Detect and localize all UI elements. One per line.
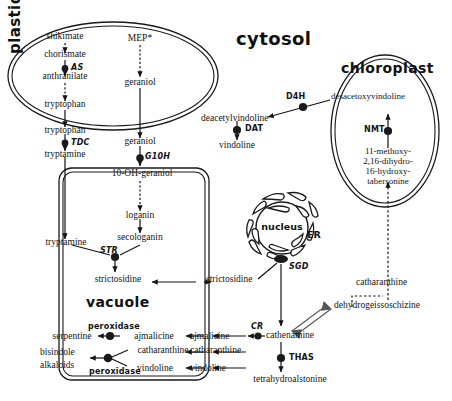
metabolite-cathenamine: cathenamine (266, 330, 314, 341)
metabolite-catharanthine-right: catharanthine (356, 277, 407, 288)
enzyme-label-tdc: TDC (71, 138, 90, 147)
metabolite-tryptamine-cytosol: tryptamine (44, 149, 85, 160)
enzyme-label-cr: CR (251, 322, 263, 331)
metabolite-tabersonine-line1: 11-methoxy- (365, 146, 411, 157)
enzyme-label-thas: THAS (289, 353, 314, 362)
enzyme-label-as: AS (71, 63, 83, 72)
compartment-label-er: ER (307, 230, 321, 241)
enzyme-label-d4h: D4H (286, 92, 306, 101)
metabolite-tryptamine-vacuole: tryptamine (45, 237, 86, 248)
metabolite-bisindole-line1: bisindole (40, 347, 75, 358)
metabolite-geraniol-cytosol: geraniol (124, 136, 155, 147)
metabolite-catharanthine-cytosol: catharanthine (190, 345, 241, 356)
metabolite-serpentine: serpentine (52, 331, 91, 342)
metabolite-geraniol-plastid: geraniol (124, 77, 155, 88)
metabolite-ajmalicine-cytosol: ajmalicine (190, 331, 230, 342)
enzyme-label-g10h: G10H (145, 152, 170, 161)
enzyme-label-peroxidase-bottom: peroxidase (89, 367, 141, 376)
metabolite-vindoline-upper: vindoline (219, 140, 255, 151)
metabolite-vindoline-vacuole: vindoline (137, 363, 173, 374)
pathway-diagram: cytosol plastids chloroplast vacuole nuc… (0, 0, 452, 401)
metabolite-10-oh-geraniol: 10-OH-geraniol (112, 168, 173, 179)
enzyme-label-peroxidase-top: peroxidase (88, 322, 140, 331)
metabolite-deacetylvindoline: deacetylvindoline (201, 113, 269, 124)
compartment-label-plastids: plastids (6, 0, 24, 54)
metabolite-bisindole-line2: alkaloids (40, 360, 74, 371)
metabolite-secologanin: secologanin (117, 232, 162, 243)
metabolite-catharanthine-vacuole: catharanthine (137, 345, 188, 356)
metabolite-tryptophan-cytosol: tryptophan (44, 125, 85, 136)
metabolite-tabersonine-line4: tabersonine (367, 176, 408, 187)
plastids-membrane (8, 22, 218, 130)
enzyme-label-str: STR (100, 246, 118, 255)
enzyme-label-dat: DAT (245, 124, 263, 133)
compartment-label-cytosol: cytosol (236, 28, 311, 49)
compartment-label-vacuole: vacuole (86, 294, 150, 310)
metabolite-mep: MEP* (128, 33, 152, 44)
metabolite-loganin: loganin (126, 210, 155, 221)
metabolite-anthranilate: anthranilate (43, 71, 88, 82)
compartment-label-chloroplast: chloroplast (341, 60, 434, 76)
enzyme-label-sgd: SGD (289, 262, 309, 271)
metabolite-tryptophan-plastid: tryptophan (44, 99, 85, 110)
enzyme-label-nmt: NMT (364, 125, 385, 134)
metabolite-desacetoxyvindoline: desacetoxyvindoline (331, 91, 405, 102)
metabolite-strictosidine-vacuole: strictosidine (95, 274, 141, 285)
metabolite-vindoline-cytosol: vindoline (190, 363, 226, 374)
metabolite-chorismate: chorismate (44, 49, 86, 60)
metabolite-tetrahydroalstonine: tetrahydroalstonine (253, 374, 326, 385)
compartment-label-nucleus: nucleus (261, 222, 302, 233)
metabolite-dehydrogeissoschizine: dehydrogeissoschizine (334, 300, 420, 311)
metabolite-tabersonine-line3: 16-hydroxy- (366, 166, 411, 177)
metabolite-ajmalicine-vacuole: ajmalicine (134, 331, 174, 342)
metabolite-strictosidine-cytosol: strictosidine (206, 274, 252, 285)
metabolite-shikimate: shikimate (47, 31, 84, 42)
metabolite-tabersonine-line2: 2,16-dihydro- (363, 156, 413, 167)
